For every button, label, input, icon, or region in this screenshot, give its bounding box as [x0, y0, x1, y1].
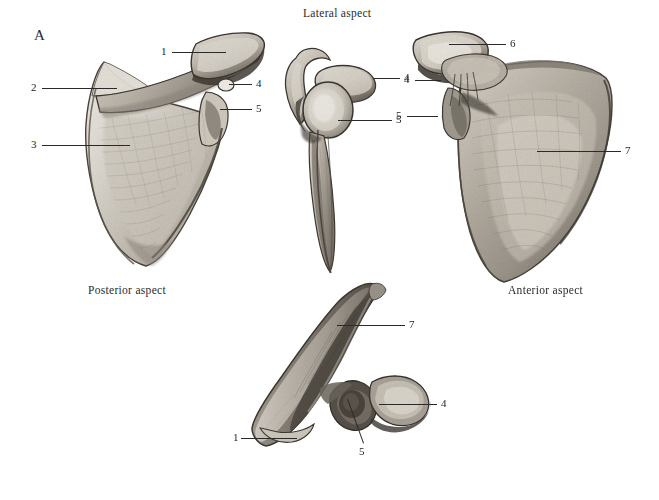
label-1-posterior: 1: [161, 46, 167, 57]
label-6-anterior: 6: [510, 38, 516, 49]
leader-line-5-posterior: [220, 109, 252, 110]
label-5-anterior: 5: [396, 110, 402, 121]
scapula-posterior-drawing: [86, 33, 265, 266]
label-2-posterior: 2: [31, 82, 37, 93]
label-7-superior: 7: [409, 319, 415, 330]
leader-line-4-lateral: [374, 78, 400, 79]
label-5-posterior: 5: [256, 103, 262, 114]
label-7-anterior: 7: [625, 145, 631, 156]
leader-line-4-anterior: [415, 80, 441, 81]
label-4-posterior: 4: [256, 78, 262, 89]
leader-line-7-superior: [337, 325, 405, 326]
leader-line-4-posterior: [229, 84, 252, 85]
leader-line-1-superior: [241, 438, 297, 439]
label-5-superior: 5: [359, 446, 365, 457]
scapula-lateral-drawing: [285, 48, 375, 273]
leader-line-1-posterior: [172, 52, 226, 53]
caption-lateral-aspect: Lateral aspect: [303, 7, 371, 19]
leader-line-4-superior: [379, 404, 437, 405]
leader-line-6-anterior: [449, 44, 506, 45]
anatomy-plate: A Lateral aspect Posterior aspect Anteri…: [0, 0, 659, 500]
leader-line-5-lateral: [338, 120, 392, 121]
label-1-superior: 1: [233, 432, 239, 443]
scapula-superior-drawing: [252, 283, 431, 446]
panel-letter-a: A: [34, 27, 45, 44]
leader-line-5-anterior: [407, 116, 438, 117]
scapula-illustrations: [0, 0, 659, 500]
scapula-anterior-drawing: [413, 32, 612, 282]
caption-posterior-aspect: Posterior aspect: [88, 284, 166, 296]
leader-line-3-posterior: [42, 145, 130, 146]
label-4-superior: 4: [441, 398, 447, 409]
label-4-anterior: 4: [404, 74, 410, 85]
leader-line-2-posterior: [42, 88, 117, 89]
label-3-posterior: 3: [31, 139, 37, 150]
leader-line-7-anterior: [537, 151, 621, 152]
caption-anterior-aspect: Anterior aspect: [508, 284, 583, 296]
